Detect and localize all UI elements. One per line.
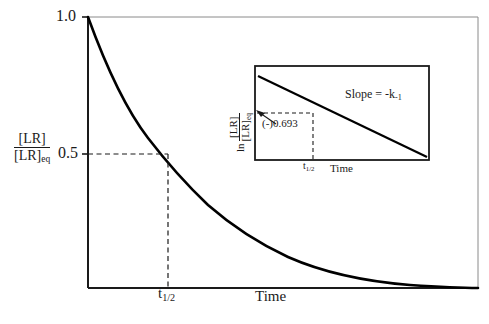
main-y-axis-numerator: [LR] bbox=[14, 132, 50, 148]
inset-y-axis-fraction: [LR] [LR]eq bbox=[228, 113, 252, 141]
inset-y-axis-prefix: ln bbox=[235, 141, 246, 152]
inset-y-axis-denominator: [LR]eq bbox=[240, 113, 252, 141]
inset-half-life-value-label: (-)0.693 bbox=[262, 118, 298, 129]
main-x-tick-sub: 1/2 bbox=[162, 292, 175, 303]
inset-y-axis-denominator-sub: eq bbox=[244, 113, 253, 120]
main-x-axis-label: Time bbox=[255, 289, 286, 304]
inset-x-axis-label: Time bbox=[330, 163, 353, 174]
inset-x-tick-label-half-life: t1/2 bbox=[303, 161, 314, 172]
main-y-tick-label-mid: 0.5 bbox=[58, 145, 78, 161]
inset-y-axis-label: ln [LR] [LR]eq bbox=[228, 113, 252, 152]
main-y-tick-label-top: 1.0 bbox=[56, 8, 76, 24]
main-y-axis-label: [LR] [LR]eq bbox=[14, 132, 50, 165]
inset-slope-subscript: -1 bbox=[395, 93, 402, 102]
figure-canvas bbox=[0, 0, 489, 324]
main-y-axis-denominator-sub: eq bbox=[41, 154, 50, 164]
inset-x-tick-sub: 1/2 bbox=[306, 165, 315, 172]
inset-slope-label: Slope = -k-1 bbox=[345, 88, 402, 102]
main-x-tick-label-half-life: t1/2 bbox=[158, 286, 175, 303]
main-y-axis-denominator: [LR]eq bbox=[14, 148, 50, 165]
